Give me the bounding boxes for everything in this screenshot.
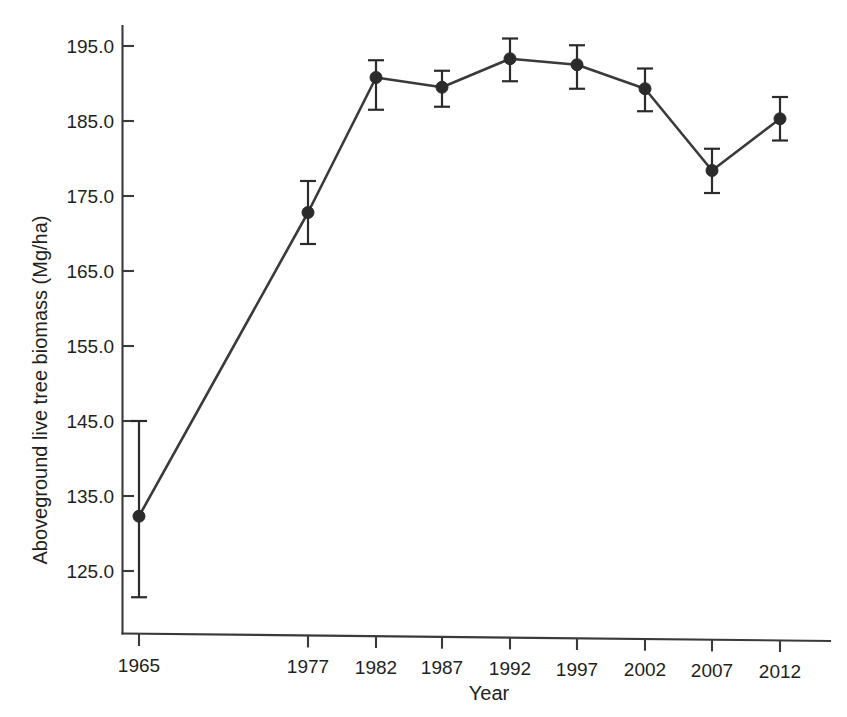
y-axis-title: Aboveground live tree biomass (Mg/ha) <box>29 215 51 564</box>
y-axis-ticks <box>123 46 135 571</box>
data-marker <box>706 165 718 177</box>
data-marker <box>774 113 786 125</box>
x-tick-label-1987: 1987 <box>421 657 463 678</box>
data-point-1977[interactable] <box>300 181 316 244</box>
y-tick-label-165: 165.0 <box>66 261 114 282</box>
y-axis-tick-labels: 195.0 185.0 175.0 165.0 155.0 145.0 135.… <box>66 36 114 582</box>
y-tick-label-135: 135.0 <box>66 486 114 507</box>
data-point-2007[interactable] <box>704 149 720 193</box>
x-tick-label-1992: 1992 <box>489 658 531 679</box>
y-tick-label-155: 155.0 <box>66 336 114 357</box>
x-tick-label-1977: 1977 <box>287 656 329 677</box>
data-point-2012[interactable] <box>772 97 788 141</box>
x-axis-tick-labels: 1965 1977 1982 1987 1992 1997 2002 2007 … <box>118 655 801 682</box>
x-tick-label-1982: 1982 <box>355 657 397 678</box>
data-marker <box>133 510 145 522</box>
x-tick-label-1997: 1997 <box>556 659 598 680</box>
data-marker <box>436 81 448 93</box>
data-marker <box>571 59 583 71</box>
data-point-1982[interactable] <box>368 60 384 110</box>
data-point-1987[interactable] <box>434 71 450 107</box>
y-tick-label-145: 145.0 <box>66 411 114 432</box>
data-series-layer <box>131 39 788 598</box>
y-tick-label-185: 185.0 <box>66 111 114 132</box>
data-marker <box>370 72 382 84</box>
x-tick-label-1965: 1965 <box>118 655 160 676</box>
y-tick-label-125: 125.0 <box>66 561 114 582</box>
series-line <box>139 59 780 517</box>
chart-figure: Aboveground live tree biomass (Mg/ha) Ye… <box>0 0 847 717</box>
data-marker <box>639 83 651 95</box>
x-tick-label-2012: 2012 <box>759 661 801 682</box>
line-chart: Aboveground live tree biomass (Mg/ha) Ye… <box>0 0 847 717</box>
data-point-1997[interactable] <box>569 45 585 89</box>
data-point-1992[interactable] <box>502 39 518 82</box>
data-marker <box>302 207 314 219</box>
x-tick-label-2007: 2007 <box>691 660 733 681</box>
data-marker <box>504 53 516 65</box>
data-point-2002[interactable] <box>637 69 653 112</box>
x-axis-spine <box>123 634 831 642</box>
y-tick-label-175: 175.0 <box>66 186 114 207</box>
x-tick-label-2002: 2002 <box>624 659 666 680</box>
x-axis-title: Year <box>469 682 510 704</box>
y-tick-label-195: 195.0 <box>66 36 114 57</box>
